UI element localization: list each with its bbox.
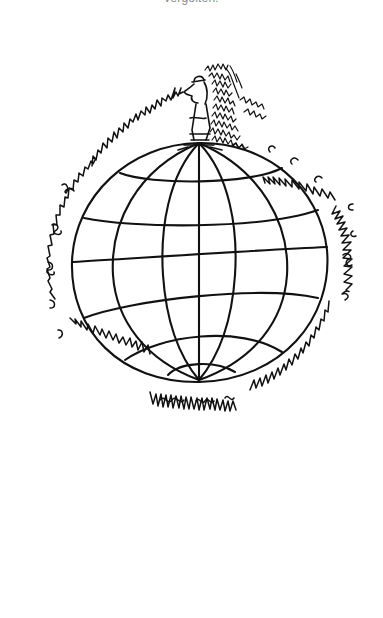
scribble-speech-ring [47, 88, 356, 411]
globe-speech-illustration [0, 0, 383, 618]
scribble-pile [205, 64, 266, 149]
globe [72, 143, 328, 382]
